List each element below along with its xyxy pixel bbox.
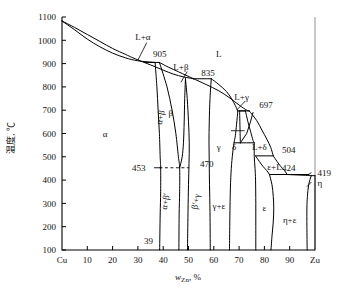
y-tick-label-500: 500	[43, 152, 57, 162]
phase-label-δ: δ	[232, 142, 236, 152]
phase-label-L-plus-δ: L+δ	[252, 142, 267, 152]
phase-label-L-plus-β: L+β	[173, 62, 189, 72]
x-tick-label-10: Zu	[310, 255, 320, 265]
phase-label-γ-plus-ε: γ+ε	[211, 201, 225, 211]
y-axis-title: 温度, ℃	[5, 122, 16, 154]
y-tick-label-800: 800	[43, 82, 57, 92]
phase-label-ε-plus-L: ε+L	[267, 162, 281, 172]
y-tick-label-200: 200	[43, 222, 57, 232]
temp-label-697: 697	[259, 100, 273, 110]
x-tick-label-6: 60	[209, 255, 219, 265]
temp-label-39: 39	[144, 236, 154, 246]
temp-label-504: 504	[282, 145, 296, 155]
y-tick-label-600: 600	[43, 129, 57, 139]
phase-label-η-plus-ε: η+ε	[283, 215, 297, 225]
phase-label-L-plus-α: L+α	[135, 32, 151, 42]
phase-label-β: β	[168, 108, 173, 118]
phase-label-α: α	[103, 129, 108, 139]
temp-label-424: 424	[282, 163, 296, 173]
temp-label-470: 470	[200, 159, 214, 169]
y-tick-label-100: 100	[43, 245, 57, 255]
y-tick-label-700: 700	[43, 105, 57, 115]
x-tick-label-3: 30	[133, 255, 143, 265]
x-tick-label-0: Cu	[57, 255, 68, 265]
phase-label-η: η	[318, 178, 323, 188]
phase-label-ε: ε	[263, 203, 267, 213]
x-tick-label-5: 50	[184, 255, 194, 265]
x-axis-title: wZn, %	[175, 272, 201, 284]
x-tick-label-2: 20	[108, 255, 118, 265]
x-tick-label-1: 10	[83, 255, 93, 265]
y-tick-label-900: 900	[43, 59, 57, 69]
x-tick-label-4: 40	[159, 255, 169, 265]
x-tick-label-9: 90	[285, 255, 295, 265]
y-tick-label-300: 300	[43, 199, 57, 209]
y-tick-label-400: 400	[43, 175, 57, 185]
x-tick-label-8: 80	[260, 255, 270, 265]
phase-diagram-figure: 10020030040050060070080090010001100Cu102…	[0, 0, 345, 299]
phase-label-L: L	[216, 49, 222, 59]
cu-zn-phase-diagram-svg: 10020030040050060070080090010001100Cu102…	[0, 0, 345, 299]
y-tick-label-1000: 1000	[38, 36, 57, 46]
temp-label-905: 905	[153, 49, 167, 59]
x-tick-label-7: 70	[235, 255, 245, 265]
y-tick-label-1100: 1100	[38, 12, 56, 22]
phase-label-γ: γ	[216, 142, 221, 152]
temp-label-835: 835	[201, 68, 215, 78]
temp-label-453: 453	[132, 163, 146, 173]
phase-label-L-plus-γ: L+γ	[234, 92, 249, 102]
